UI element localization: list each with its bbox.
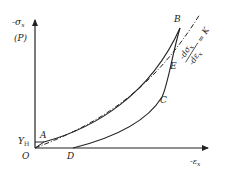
loading-curve-ab	[44, 28, 180, 142]
tangent-slope-label: -dσx -dεx = K	[177, 22, 217, 68]
point-e-label: E	[169, 61, 177, 71]
point-b-label: B	[173, 14, 181, 24]
point-c-label: C	[160, 95, 167, 105]
x-axis-label: -εx	[190, 157, 201, 167]
tangent-line	[35, 14, 200, 148]
svg-text:= K: = K	[195, 25, 211, 44]
point-d-label: D	[66, 151, 74, 161]
unloading-curve-bcd	[73, 28, 180, 148]
y-axis-label-p: (P)	[14, 33, 28, 43]
yield-label: YH	[18, 136, 29, 147]
point-o-label: O	[22, 151, 30, 161]
stress-strain-diagram: -σx (P) -εx O A B E C D YH -dσx -dεx = K	[0, 0, 235, 181]
y-axis-label: -σx	[12, 17, 25, 28]
point-a-label: A	[39, 130, 47, 140]
